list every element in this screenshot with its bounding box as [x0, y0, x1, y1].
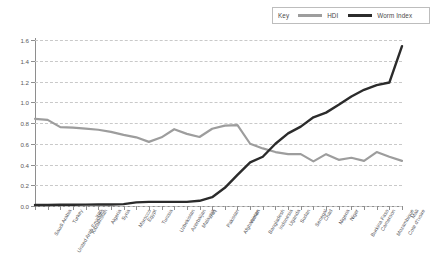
- y-axis-tick-label: 1.0: [20, 99, 29, 106]
- y-axis-tick-label: 1.6: [20, 37, 29, 44]
- line-swatch-icon: [348, 14, 372, 17]
- y-axis-tick-label: 0.8: [20, 120, 29, 127]
- x-axis-tick: [402, 206, 403, 210]
- line-series-worm-index: [35, 46, 402, 205]
- legend-key-label: Key: [278, 12, 289, 19]
- legend-entry-worm-index: Worm Index: [348, 12, 412, 19]
- y-axis-tick-label: 1.2: [20, 78, 29, 85]
- x-axis-category-label: Saudi Arabia: [53, 208, 73, 236]
- y-axis-tick-label: 1.4: [20, 57, 29, 64]
- y-axis-tick-label: 0.2: [20, 182, 29, 189]
- gridline: [35, 206, 402, 207]
- series-lines: [35, 40, 402, 206]
- legend-label-worm-index: Worm Index: [377, 12, 412, 19]
- x-axis-category-label: Yemen: [248, 208, 261, 225]
- x-axis-category-label: Tunisia: [160, 208, 173, 225]
- chart-legend: Key HDI Worm Index: [272, 7, 430, 24]
- y-axis-tick-label: 0.0: [20, 203, 29, 210]
- legend-entry-hdi: HDI: [298, 12, 338, 19]
- x-axis-category-label: Turkey: [71, 208, 84, 225]
- x-axis-category-label: Pakistan: [225, 208, 240, 228]
- y-axis-tick-label: 0.6: [20, 140, 29, 147]
- legend-label-hdi: HDI: [327, 12, 338, 19]
- y-axis-tick-label: 0.4: [20, 161, 29, 168]
- x-axis-labels: Saudi ArabiaUnited Arab EmiratesTurkeyKa…: [35, 208, 402, 278]
- line-swatch-icon: [298, 14, 322, 17]
- line-series-hdi: [35, 119, 402, 162]
- plot-area: 0.00.20.40.60.81.01.21.41.6: [35, 40, 402, 206]
- chart-container: Key HDI Worm Index 0.00.20.40.60.81.01.2…: [0, 0, 437, 279]
